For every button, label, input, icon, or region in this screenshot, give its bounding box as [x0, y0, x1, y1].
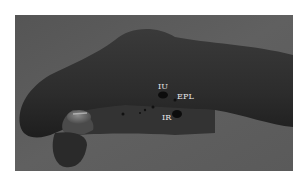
- thumbnail: [67, 110, 91, 124]
- label-epl: EPL: [177, 93, 194, 101]
- portal-ir-marker: [172, 110, 182, 118]
- label-iu: IU: [158, 83, 168, 91]
- portal-iu-marker: [158, 92, 168, 99]
- hand-photograph: IU EPL IR: [15, 15, 293, 171]
- label-ir: IR: [162, 114, 172, 122]
- hand-illustration: [15, 15, 293, 171]
